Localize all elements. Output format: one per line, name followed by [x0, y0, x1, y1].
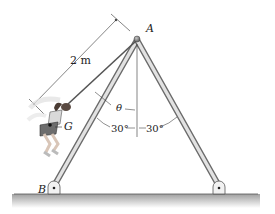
label-rope-length: 2 m — [70, 55, 91, 66]
swing-diagram — [0, 0, 275, 214]
label-theta: θ — [116, 103, 122, 113]
right-leg — [137, 40, 219, 186]
ground — [12, 194, 260, 208]
support-b — [48, 181, 60, 194]
left-leg — [54, 40, 137, 186]
label-a: A — [146, 23, 154, 34]
label-right-angle: 30° — [146, 124, 164, 134]
center-of-gravity-point — [48, 123, 52, 127]
support-right — [213, 181, 225, 194]
pin-a — [134, 36, 140, 42]
swing-rope — [68, 41, 136, 104]
label-g: G — [64, 121, 73, 132]
label-left-angle: 30° — [111, 124, 129, 134]
label-b: B — [38, 184, 46, 195]
